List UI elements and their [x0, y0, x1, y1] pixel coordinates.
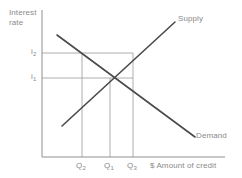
x-tick-q3-base: Q	[127, 161, 133, 170]
y-tick-i1-subscript: 1	[33, 76, 36, 82]
supply-demand-diagram: Interest rate $ Amount of credit Supply …	[0, 0, 242, 178]
x-tick-q1-base: Q	[104, 161, 110, 170]
x-tick-q2-base: Q	[76, 161, 82, 170]
demand-curve	[57, 35, 195, 137]
y-tick-label-i2: i2	[31, 47, 36, 57]
y-tick-i2-subscript: 2	[33, 51, 36, 57]
x-axis-title: $ Amount of credit	[150, 161, 216, 171]
supply-curve-label: Supply	[178, 14, 203, 24]
x-tick-q3-subscript: 3	[134, 165, 137, 171]
x-tick-label-q1: Q1	[104, 161, 114, 171]
x-tick-label-q2: Q2	[76, 161, 86, 171]
x-tick-q2-subscript: 2	[83, 165, 86, 171]
x-tick-q1-subscript: 1	[111, 165, 114, 171]
y-axis-title: Interest rate	[9, 8, 53, 27]
x-tick-label-q3: Q3	[127, 161, 137, 171]
y-tick-label-i1: i1	[31, 72, 36, 82]
guide-lines	[42, 53, 133, 157]
y-axis-title-line1: Interest	[9, 8, 36, 17]
demand-curve-label: Demand	[196, 131, 227, 141]
y-axis-title-line2: rate	[9, 18, 23, 27]
